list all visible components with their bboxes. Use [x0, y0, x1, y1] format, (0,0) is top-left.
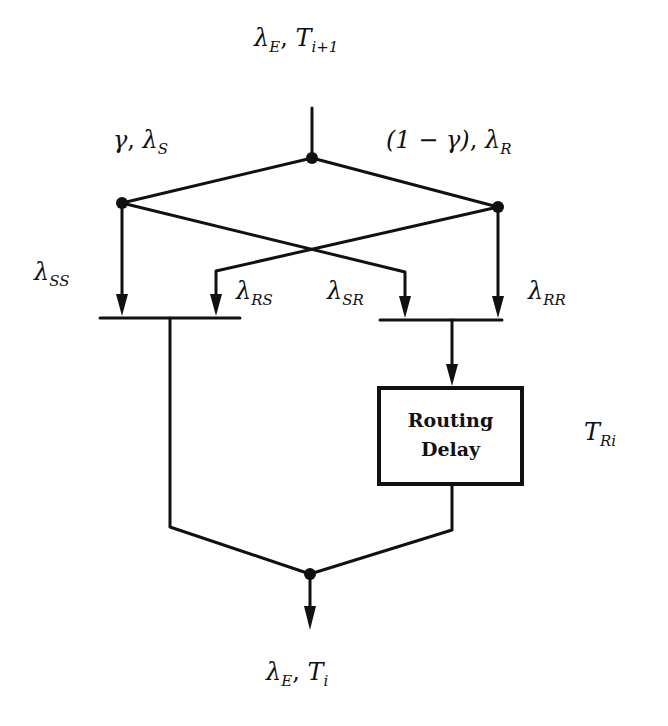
separator: , — [127, 126, 142, 154]
arrow-output-icon — [304, 606, 316, 630]
left-output-path — [170, 318, 310, 574]
output-merge-node — [304, 568, 316, 580]
output-rate-symbol: λ — [266, 658, 281, 686]
arrow-sr-icon — [399, 296, 411, 318]
gamma-symbol: γ — [113, 126, 127, 154]
t-symbol: T — [584, 418, 600, 446]
arrow-ss-icon — [116, 294, 128, 316]
right-output-path — [310, 486, 452, 574]
routing-time-label: TRi — [584, 418, 616, 450]
lambda-symbol: λ — [528, 277, 543, 305]
flow-ss-label: λSS — [34, 258, 70, 290]
routing-label-line1: Routing — [381, 406, 520, 435]
right-split-node — [492, 201, 504, 213]
flow-ss-subscript: SS — [49, 272, 69, 290]
input-rate-symbol: λ — [254, 24, 269, 52]
flow-sr-subscript: SR — [342, 291, 364, 309]
input-time-subscript: i+1 — [311, 38, 338, 56]
output-rate-subscript: E — [281, 672, 292, 690]
lambda-symbol: λ — [34, 258, 49, 286]
left-split-node — [116, 197, 128, 209]
input-split-node — [306, 152, 318, 164]
flow-sr-label: λSR — [327, 277, 364, 309]
flow-rr-subscript: RR — [543, 291, 566, 309]
routing-delay-label: Routing Delay — [381, 406, 520, 464]
routing-time-subscript: Ri — [600, 432, 616, 450]
arrow-rr-icon — [492, 296, 504, 318]
flow-rs-label: λRS — [236, 277, 273, 309]
lambda-symbol: λ — [236, 277, 251, 305]
output-time-symbol: T — [307, 658, 323, 686]
input-rate-subscript: E — [269, 38, 280, 56]
output-label: λE, Ti — [266, 658, 328, 690]
flow-rr-label: λRR — [528, 277, 566, 309]
lambda-s-subscript: S — [158, 140, 168, 158]
lambda-r-subscript: R — [500, 140, 511, 158]
input-label: λE, Ti+1 — [254, 24, 338, 56]
split-left-line — [122, 158, 312, 203]
input-time-symbol: T — [295, 24, 311, 52]
separator: , — [470, 126, 485, 154]
lambda-symbol: λ — [327, 277, 342, 305]
one-minus-gamma: (1 − γ) — [386, 126, 470, 154]
routing-label-line2: Delay — [381, 435, 520, 464]
flow-rs-subscript: RS — [251, 291, 273, 309]
output-time-subscript: i — [323, 672, 328, 690]
lambda-s-symbol: λ — [143, 126, 158, 154]
arrow-rs-icon — [210, 294, 222, 316]
lambda-r-symbol: λ — [485, 126, 500, 154]
separator: , — [280, 24, 295, 52]
arrow-routing-icon — [446, 364, 458, 386]
separator: , — [292, 658, 307, 686]
split-left-label: γ, λS — [113, 126, 168, 158]
split-right-label: (1 − γ), λR — [386, 126, 512, 158]
split-right-line — [312, 158, 498, 207]
flow-diagram-canvas — [0, 0, 668, 726]
